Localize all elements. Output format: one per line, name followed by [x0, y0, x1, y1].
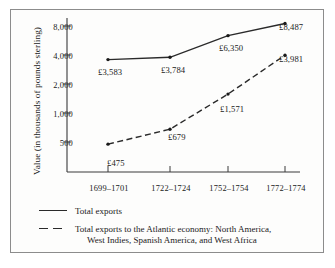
data-label-lower-2: £679: [168, 132, 186, 142]
y-tick-label-500: 500: [60, 139, 73, 148]
legend-item-atlantic-economy: Total exports to the Atlantic economy: N…: [39, 224, 319, 246]
x-tick-label-1722-1724: 1722–1724: [151, 184, 191, 193]
data-label-upper-4: £8,487: [279, 22, 303, 32]
x-tick-label-1772-1774: 1772–1774: [266, 184, 306, 193]
legend-label-atlantic-line2: West Indies, Spanish America, and West A…: [87, 235, 319, 246]
legend-solid-line-icon: [39, 210, 67, 211]
data-label-lower-4: £3,981: [279, 54, 303, 64]
y-tick-label-2000: 2,000: [53, 81, 73, 90]
legend-label-total-exports: Total exports: [75, 206, 319, 217]
figure-frame: Value (in thousands of pounds sterling) …: [10, 9, 324, 253]
data-label-upper-1: £3,583: [98, 67, 122, 77]
data-label-lower-3: £1,571: [220, 104, 244, 114]
data-label-upper-3: £6,350: [219, 43, 243, 53]
y-tick-label-8000: 8,000: [53, 23, 73, 32]
data-label-upper-2: £3,784: [161, 65, 185, 75]
x-tick-label-1752-1754: 1752–1754: [209, 184, 249, 193]
y-tick-label-1000: 1,000: [53, 110, 73, 119]
y-tick-label-4000: 4,000: [53, 52, 73, 61]
legend-dashed-line-icon: [39, 228, 67, 229]
x-tick-label-1699-1701: 1699–1701: [89, 184, 129, 193]
data-label-lower-1: £475: [107, 158, 125, 168]
legend-label-atlantic-line1: Total exports to the Atlantic economy: N…: [75, 224, 319, 235]
legend-item-total-exports: Total exports: [39, 206, 319, 217]
chart-legend: Total exports Total exports to the Atlan…: [39, 206, 319, 253]
